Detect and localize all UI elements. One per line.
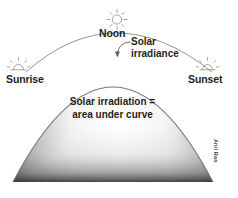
label-solar-irradiation-line1: Solar irradiation = [0,96,225,109]
label-solar-irradiance-line2: irradiance [131,48,179,60]
curved-arrow-icon [115,42,130,57]
label-solar-irradiation-line2: area under curve [0,109,225,122]
label-solar-irradiance: Solar irradiance [131,36,179,60]
label-sunset: Sunset [188,74,222,86]
label-solar-irradiation: Solar irradiation = area under curve [0,96,225,122]
label-solar-irradiance-line1: Solar [131,36,179,48]
half-sun-icon-sunrise [7,58,29,70]
solar-irradiance-diagram: Sunrise Noon Sunset Solar irradiance Sol… [0,0,238,198]
label-noon: Noon [99,28,125,40]
label-sunrise: Sunrise [6,74,44,86]
credit-text: Anil Rao [213,139,219,193]
